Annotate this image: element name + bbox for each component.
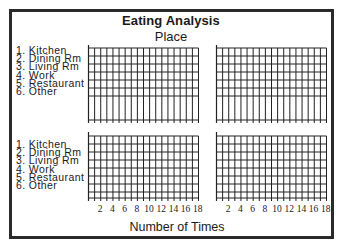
x-ticks-left: 2 4 6 8 10 12 14 16 18 — [88, 204, 200, 216]
legend-bottom: 1. Kitchen 2. Dining Rm 3. Living Rm 4. … — [16, 140, 84, 189]
chart-title: Eating Analysis — [0, 13, 342, 28]
tick-label: 18 — [321, 204, 331, 214]
x-ticks-right: 2 4 6 8 10 12 14 16 18 — [216, 204, 328, 216]
tick-label: 4 — [110, 204, 115, 214]
tick-label: 10 — [144, 204, 154, 214]
tick-label: 2 — [226, 204, 231, 214]
tick-label: 14 — [297, 204, 307, 214]
grid-bottom-left — [88, 132, 200, 202]
tick-label: 16 — [181, 204, 191, 214]
tick-label: 16 — [309, 204, 319, 214]
tick-label: 10 — [272, 204, 282, 214]
grid-top-left — [88, 45, 200, 125]
tick-label: 4 — [238, 204, 243, 214]
tick-label: 2 — [98, 204, 103, 214]
tick-label: 12 — [156, 204, 166, 214]
tick-label: 8 — [134, 204, 139, 214]
grid-top-right — [216, 45, 328, 125]
tick-label: 6 — [250, 204, 255, 214]
tick-label: 18 — [193, 204, 203, 214]
tick-label: 6 — [122, 204, 127, 214]
x-axis-label: Number of Times — [0, 220, 342, 234]
legend-top: 1. Kitchen 2. Dining Rm 3. Living Rm 4. … — [16, 46, 84, 95]
tick-label: 8 — [262, 204, 267, 214]
grid-bottom-right — [216, 132, 328, 202]
tick-label: 14 — [169, 204, 179, 214]
chart-subtitle: Place — [0, 29, 342, 44]
tick-label: 12 — [284, 204, 294, 214]
